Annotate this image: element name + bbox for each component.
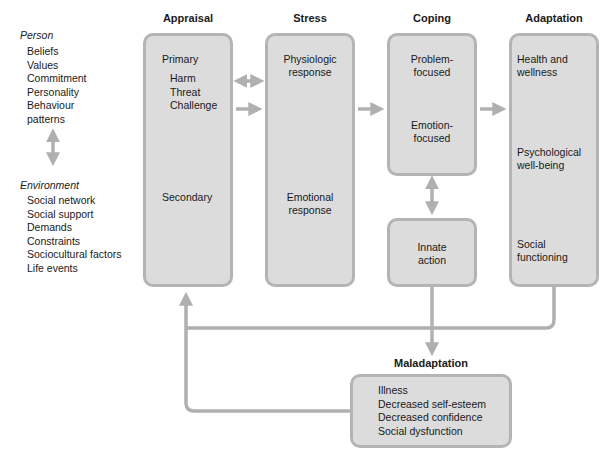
stress-emotional-line2: response <box>265 204 355 217</box>
stress-physiologic: Physiologic response <box>265 53 355 79</box>
environment-item: Demands <box>27 221 122 235</box>
adaptation-social: Social functioning <box>517 238 568 264</box>
innate-action: Innate action <box>387 241 477 267</box>
maladaptation-item: Illness <box>378 384 486 398</box>
maladaptation-item: Decreased self-esteem <box>378 398 486 412</box>
adaptation-heading: Adaptation <box>509 12 599 24</box>
environment-item: Social network <box>27 194 122 208</box>
adaptation-social-line2: functioning <box>517 251 568 264</box>
adaptation-psych-line2: well-being <box>517 159 581 172</box>
environment-items: Social network Social support Demands Co… <box>27 194 122 275</box>
appraisal-threat: Threat <box>170 86 217 100</box>
appraisal-harm: Harm <box>170 72 217 86</box>
maladaptation-heading: Maladaptation <box>350 357 512 369</box>
stress-physiologic-line1: Physiologic <box>265 53 355 66</box>
stress-emotional: Emotional response <box>265 191 355 217</box>
appraisal-challenge: Challenge <box>170 99 217 113</box>
environment-item: Constraints <box>27 235 122 249</box>
coping-emotion-line2: focused <box>387 132 477 145</box>
environment-item: Life events <box>27 262 122 276</box>
coping-problem-line2: focused <box>387 66 477 79</box>
environment-item: Social support <box>27 208 122 222</box>
coping-emotion-focused: Emotion- focused <box>387 119 477 145</box>
maladaptation-items: Illness Decreased self-esteem Decreased … <box>378 384 486 438</box>
adaptation-health: Health and wellness <box>517 53 568 79</box>
person-item: Behaviour <box>27 99 87 113</box>
adaptation-psych-line1: Psychological <box>517 146 581 159</box>
adaptation-social-line1: Social <box>517 238 568 251</box>
stress-physiologic-line2: response <box>265 66 355 79</box>
person-item: Beliefs <box>27 45 87 59</box>
maladaptation-item: Social dysfunction <box>378 425 486 439</box>
coping-problem-line1: Problem- <box>387 53 477 66</box>
appraisal-heading: Appraisal <box>143 12 233 24</box>
innate-line1: Innate <box>387 241 477 254</box>
person-item: Commitment <box>27 72 87 86</box>
appraisal-primary-items: Harm Threat Challenge <box>170 72 217 113</box>
maladaptation-item: Decreased confidence <box>378 411 486 425</box>
person-item: Values <box>27 59 87 73</box>
coping-heading: Coping <box>387 12 477 24</box>
coping-emotion-line1: Emotion- <box>387 119 477 132</box>
environment-title: Environment <box>20 179 79 192</box>
adaptation-psych: Psychological well-being <box>517 146 581 172</box>
adaptation-health-line1: Health and <box>517 53 568 66</box>
person-items: Beliefs Values Commitment Personality Be… <box>27 45 87 126</box>
appraisal-secondary: Secondary <box>162 191 212 204</box>
person-title: Person <box>20 29 53 42</box>
person-item: patterns <box>27 113 87 127</box>
environment-item: Sociocultural factors <box>27 248 122 262</box>
innate-line2: action <box>387 254 477 267</box>
person-item: Personality <box>27 86 87 100</box>
coping-problem-focused: Problem- focused <box>387 53 477 79</box>
adaptation-health-line2: wellness <box>517 66 568 79</box>
appraisal-primary: Primary <box>162 53 198 66</box>
stress-heading: Stress <box>265 12 355 24</box>
stress-emotional-line1: Emotional <box>265 191 355 204</box>
